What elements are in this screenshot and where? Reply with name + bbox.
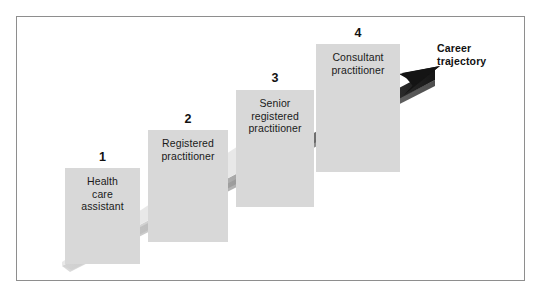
step-box-2[interactable]: Registered practitioner (148, 130, 228, 242)
step-number-1: 1 (65, 150, 140, 164)
step-box-1[interactable]: Health care assistant (65, 168, 140, 264)
step-number-3: 3 (236, 71, 314, 85)
step-number-2: 2 (148, 112, 228, 126)
figure-container: Health care assistant 1 Registered pract… (0, 0, 544, 297)
step-box-3-label: Senior registered practitioner (248, 90, 301, 135)
step-number-4: 4 (316, 26, 400, 40)
step-box-2-label: Registered practitioner (161, 130, 214, 162)
step-box-4[interactable]: Consultant practitioner (316, 44, 400, 172)
step-box-3[interactable]: Senior registered practitioner (236, 90, 314, 207)
career-trajectory-label: Career trajectory (437, 42, 486, 67)
step-box-4-label: Consultant practitioner (331, 44, 384, 76)
step-box-1-label: Health care assistant (81, 168, 123, 213)
